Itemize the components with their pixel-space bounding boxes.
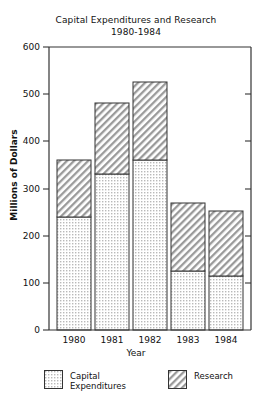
x-axis-tick-labels: 1980 1981 1982 1983 1984 [63, 335, 238, 345]
bar-segment-research-1983 [171, 203, 205, 271]
y-tick-label: 0 [34, 325, 40, 335]
y-axis-ticks-right [245, 94, 251, 283]
y-tick-label: 100 [23, 278, 40, 288]
y-axis-tick-labels: 0 100 200 300 400 500 600 [23, 42, 40, 335]
x-axis-label: Year [0, 348, 272, 358]
chart-legend: Capital Expenditures Research [0, 366, 272, 406]
legend-item-capital-expenditures: Capital Expenditures [44, 370, 126, 391]
bar-segment-capital-1983 [171, 271, 205, 330]
bar-segment-research-1981 [95, 103, 129, 174]
x-tick-label: 1984 [215, 335, 238, 345]
x-tick-label: 1980 [63, 335, 86, 345]
legend-label: Capital Expenditures [70, 370, 126, 391]
y-tick-label: 400 [23, 136, 40, 146]
hatch-swatch-icon [168, 370, 187, 389]
bar-segment-research-1984 [209, 211, 243, 276]
y-axis-ticks [43, 47, 49, 330]
y-tick-label: 200 [23, 231, 40, 241]
bar-segment-research-1980 [57, 160, 91, 217]
chart-container: Capital Expenditures and Research 1980-1… [0, 0, 272, 418]
legend-label: Research [194, 370, 233, 381]
bar-segment-capital-1984 [209, 276, 243, 330]
legend-item-research: Research [168, 370, 233, 389]
y-tick-label: 600 [23, 42, 40, 52]
x-tick-label: 1982 [139, 335, 162, 345]
bar-segment-research-1982 [133, 82, 167, 160]
y-tick-label: 500 [23, 89, 40, 99]
bar-segment-capital-1981 [95, 174, 129, 330]
x-tick-label: 1981 [101, 335, 124, 345]
x-tick-label: 1983 [177, 335, 200, 345]
y-tick-label: 300 [23, 184, 40, 194]
bars-group [57, 82, 243, 330]
dotted-swatch-icon [44, 370, 63, 389]
bar-segment-capital-1982 [133, 160, 167, 330]
bar-segment-capital-1980 [57, 217, 91, 330]
